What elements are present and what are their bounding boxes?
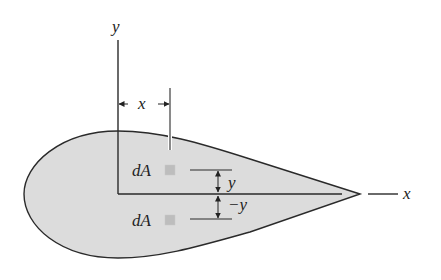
lower-area-element <box>165 215 175 225</box>
lower-element-label: dA <box>132 211 152 230</box>
upper-area-element <box>165 165 175 175</box>
upper-distance-label: y <box>226 173 236 192</box>
x-axis-label: x <box>402 184 411 203</box>
lower-distance-label: −y <box>228 195 247 214</box>
upper-element-label: dA <box>132 161 152 180</box>
diagram-canvas: y x x dA dA y −y <box>0 0 441 280</box>
x-distance-label: x <box>137 94 146 113</box>
y-axis-label: y <box>110 17 120 36</box>
